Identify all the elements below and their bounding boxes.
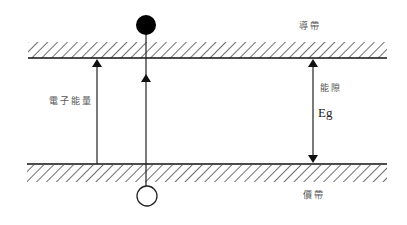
conduction-band — [28, 42, 387, 58]
energy-band-diagram: 導帶 價帶 電子能量 能隙 Eg — [0, 0, 407, 225]
band-gap-symbol: Eg — [318, 105, 333, 120]
valence-band — [27, 164, 387, 182]
hole-icon — [137, 186, 157, 206]
conduction-band-label: 導帶 — [299, 20, 321, 31]
valence-band-hatch — [27, 165, 387, 182]
electron-energy-arrow — [92, 59, 102, 164]
arrowhead-up-icon — [92, 59, 102, 67]
arrowhead-up-icon — [141, 74, 151, 82]
electron-icon — [136, 15, 156, 35]
arrowhead-down-icon — [308, 155, 318, 163]
conduction-band-hatch — [28, 42, 387, 58]
band-gap-arrow — [308, 59, 318, 163]
band-gap-label: 能隙 — [320, 82, 342, 93]
electron-energy-label: 電子能量 — [49, 95, 93, 106]
arrowhead-up-icon — [308, 59, 318, 67]
valence-band-label: 價帶 — [303, 190, 325, 200]
